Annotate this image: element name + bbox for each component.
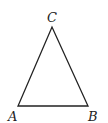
vertex-label-b: B xyxy=(87,109,98,123)
vertex-label-a: A xyxy=(7,109,17,123)
triangle-diagram: A B C xyxy=(0,0,108,123)
vertex-label-c: C xyxy=(47,10,57,25)
triangle-svg: A B C xyxy=(0,0,108,123)
triangle-abc xyxy=(18,27,88,106)
